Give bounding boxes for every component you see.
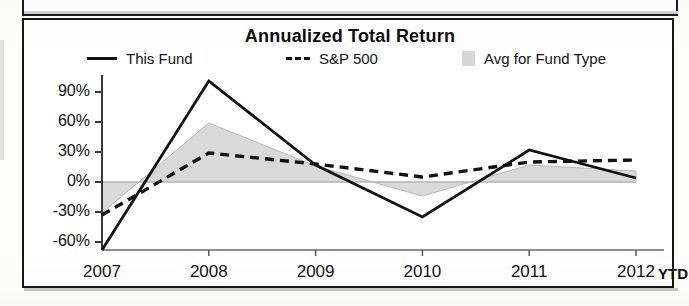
- x-tick-label: 2009: [281, 262, 351, 282]
- x-tick-label: 2011: [494, 262, 564, 282]
- x-tick-label: 2007: [67, 262, 137, 282]
- x-axis-ytd-label: YTD: [658, 265, 688, 282]
- x-tick-label: 2010: [387, 262, 457, 282]
- y-tick-label: -30%: [28, 202, 90, 220]
- chart-frame: Annualized Total Return This Fund S&P 50…: [22, 18, 674, 288]
- partial-box-shadow: [24, 11, 678, 14]
- y-tick-label: 90%: [28, 82, 90, 100]
- y-tick-label: 0%: [28, 172, 90, 190]
- y-tick-label: -60%: [28, 232, 90, 250]
- y-tick-label: 30%: [28, 142, 90, 160]
- x-tick-label: 2008: [174, 262, 244, 282]
- y-tick-label: 60%: [28, 112, 90, 130]
- plot-area: [24, 20, 676, 290]
- scan-edge-artifact: [0, 40, 4, 160]
- chart-screenshot: Annualized Total Return This Fund S&P 50…: [0, 0, 689, 306]
- plot-svg: [24, 20, 676, 290]
